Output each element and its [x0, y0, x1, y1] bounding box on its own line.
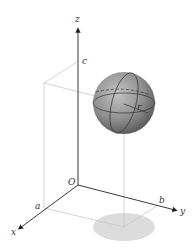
c-label: c	[82, 56, 87, 66]
x-label: x	[11, 227, 16, 237]
sphere-diagram: z c r O a b y x	[0, 0, 192, 250]
b-label: b	[159, 195, 165, 205]
x-axis	[20, 185, 78, 228]
z-label: z	[74, 14, 80, 24]
y-label: y	[179, 206, 186, 216]
sphere	[93, 70, 155, 136]
origin-label: O	[68, 177, 76, 187]
r-label: r	[137, 102, 142, 112]
a-label: a	[35, 201, 40, 211]
axes	[20, 30, 175, 228]
